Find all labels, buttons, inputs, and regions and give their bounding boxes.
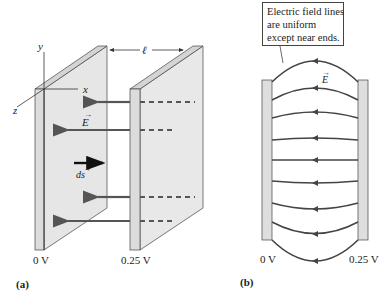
left-voltage-label-b: 0 V — [260, 253, 276, 265]
vector-arrow-glyph: → — [323, 69, 330, 77]
left-plate — [35, 46, 107, 250]
callout-box: Electric field lines are uniform except … — [262, 2, 344, 46]
separation-label: ℓ — [142, 44, 147, 56]
right-voltage-label: 0.25 V — [121, 254, 151, 266]
callout-pointer — [280, 46, 283, 63]
right-plate-b — [358, 80, 368, 240]
right-plate — [130, 46, 203, 250]
panel-b: E → 0 V 0.25 V (b) — [240, 46, 379, 289]
callout-line-2: are uniform — [267, 18, 339, 31]
vector-arrow-glyph: → — [84, 165, 91, 173]
callout-line-1: Electric field lines — [267, 5, 339, 18]
z-axis-label: z — [12, 104, 18, 116]
y-axis-label: y — [37, 40, 43, 52]
right-voltage-label-b: 0.25 V — [349, 253, 379, 265]
panel-b-label: (b) — [240, 276, 254, 289]
panel-a-label: (a) — [16, 278, 29, 291]
vector-arrow-glyph: → — [84, 110, 92, 119]
x-axis-label: x — [82, 83, 88, 95]
left-plate-b — [262, 80, 272, 240]
callout-line-3: except near ends. — [267, 31, 339, 44]
panel-a: y x z ℓ E → ds → 0 V 0.25 V (a) — [12, 40, 203, 291]
left-voltage-label: 0 V — [33, 254, 49, 266]
